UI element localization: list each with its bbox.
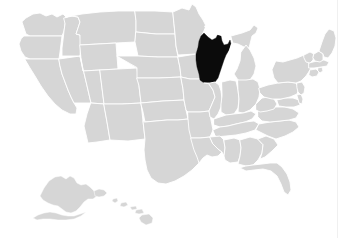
- state-georgia: [238, 137, 263, 166]
- state-oregon: [19, 36, 62, 59]
- hawaii-kauai: [112, 198, 118, 203]
- state-rhode-island: [318, 67, 323, 73]
- state-alabama: [224, 138, 241, 163]
- state-locator-map: United States locator map Wisconsin WI U…: [0, 0, 344, 238]
- hawaii-molokai: [130, 206, 137, 210]
- hawaii-big-island: [139, 214, 153, 225]
- state-new-mexico: [104, 103, 145, 141]
- state-oklahoma: [141, 100, 188, 122]
- state-washington: [22, 13, 66, 36]
- alaska-panhandle: [94, 189, 107, 197]
- state-north-dakota: [135, 11, 175, 34]
- state-connecticut: [309, 69, 319, 77]
- hawaii-oahu: [120, 202, 128, 207]
- state-new-jersey: [297, 82, 305, 95]
- state-kansas: [137, 77, 184, 103]
- state-north-carolina: [256, 120, 299, 139]
- state-colorado: [100, 68, 141, 104]
- state-florida: [240, 163, 291, 195]
- state-indiana: [221, 80, 239, 115]
- state-vermont: [304, 52, 314, 63]
- state-wisconsin-highlighted: [196, 33, 231, 83]
- us-map-graphic: [0, 0, 344, 238]
- aleutian-islands: [33, 212, 86, 220]
- hawaii-maui: [135, 209, 144, 214]
- state-pennsylvania: [259, 82, 299, 99]
- state-wyoming: [80, 43, 118, 71]
- state-south-dakota: [135, 32, 178, 57]
- state-idaho: [62, 16, 81, 56]
- state-alaska: [40, 176, 97, 213]
